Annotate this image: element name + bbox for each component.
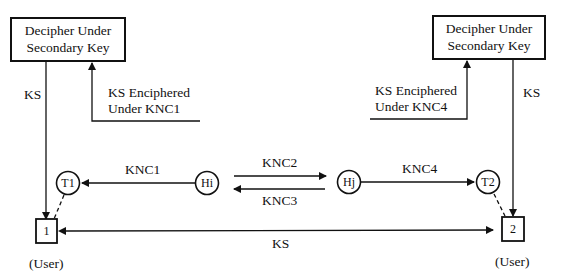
user2-label: (User)	[495, 254, 529, 270]
left-ks-label: KS	[24, 87, 41, 103]
user1-label: (User)	[29, 256, 63, 272]
right-box-line1: Decipher Under	[433, 20, 545, 37]
left-box-line1: Decipher Under	[11, 22, 125, 39]
node-t2-label: T2	[477, 171, 499, 193]
right-box-text: Decipher Under Secondary Key	[433, 20, 545, 54]
right-enciphered-line1: KS Enciphered	[375, 83, 457, 99]
edge-knc4-label: KNC4	[402, 161, 437, 177]
right-box-line2: Secondary Key	[433, 37, 545, 54]
right-enciphered-line2: Under KNC4	[375, 99, 447, 115]
left-enciphered-line2: Under KNC1	[108, 101, 180, 117]
user1-id: 1	[36, 223, 57, 239]
user2-id: 2	[502, 221, 524, 237]
left-box-line2: Secondary Key	[11, 39, 125, 56]
left-box-text: Decipher Under Secondary Key	[11, 22, 125, 56]
node-t1-label: T1	[57, 172, 79, 194]
dashed-t2-user2	[494, 194, 505, 216]
right-ks-label: KS	[523, 85, 540, 101]
edge-knc1-label: KNC1	[125, 162, 160, 178]
edge-knc3-label: KNC3	[262, 193, 297, 209]
node-hi-label: Hi	[196, 172, 218, 194]
edge-ks-label: KS	[272, 236, 289, 252]
left-enciphered-line1: KS Enciphered	[108, 85, 190, 101]
edge-ks-user-user	[66, 230, 493, 231]
node-hj-label: Hj	[338, 171, 360, 193]
edge-knc2-label: KNC2	[262, 155, 297, 171]
dashed-t1-user1	[54, 195, 64, 219]
